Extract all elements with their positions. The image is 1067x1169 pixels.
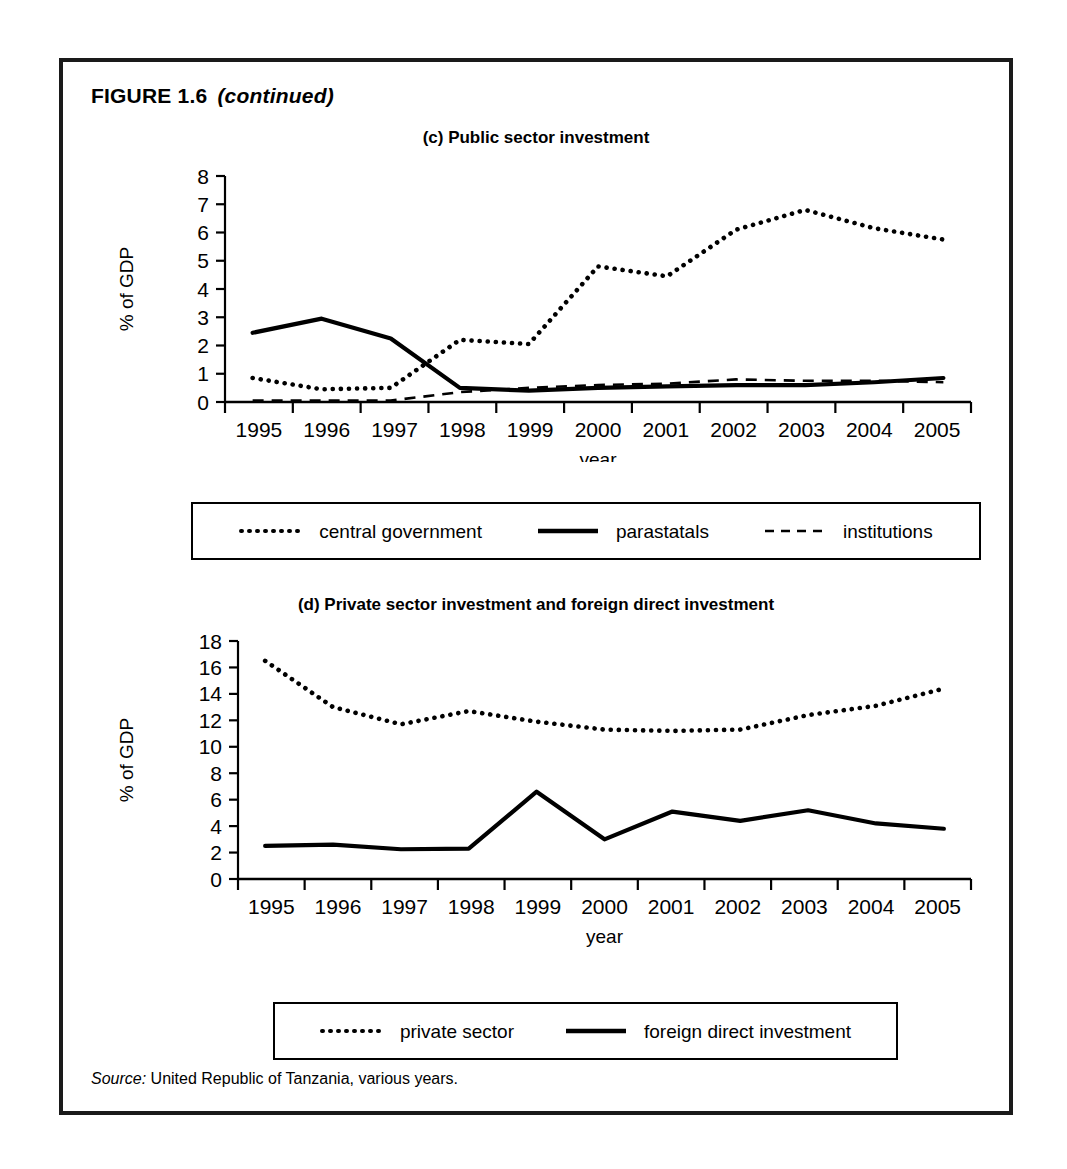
x-tick-label: 2000 — [575, 418, 622, 441]
y-tick-label: 5 — [197, 249, 209, 272]
y-tick-label: 6 — [210, 788, 222, 811]
y-tick-label: 0 — [210, 868, 222, 891]
y-axis-label: % of GDP — [116, 247, 137, 331]
solid-line-icon — [536, 524, 600, 538]
legend-item-institutions[interactable]: institutions — [763, 522, 933, 541]
x-tick-label: 2002 — [710, 418, 757, 441]
legend-item-foreign-direct-investment[interactable]: foreign direct investment — [564, 1022, 851, 1041]
x-tick-label: 1999 — [515, 895, 562, 918]
y-tick-label: 7 — [197, 193, 209, 216]
figure-continued-label: (continued) — [217, 84, 334, 107]
y-tick-label: 2 — [210, 841, 222, 864]
legend-label: central government — [319, 522, 482, 541]
y-tick-label: 4 — [210, 815, 222, 838]
series-line-private-sector — [265, 661, 944, 731]
y-tick-label: 4 — [197, 278, 209, 301]
x-tick-label: 2003 — [778, 418, 825, 441]
dotted-line-icon — [320, 1024, 384, 1038]
x-tick-label: 1998 — [448, 895, 495, 918]
chart-panel-c: 0123456781995199619971998199920002001200… — [103, 162, 993, 462]
y-tick-label: 8 — [197, 165, 209, 188]
figure-frame: FIGURE 1.6(continued) (c) Public sector … — [59, 58, 1013, 1115]
legend-item-parastatals[interactable]: parastatals — [536, 522, 709, 541]
x-tick-label: 2005 — [914, 895, 961, 918]
panel-d-plot: 0246810121416181995199619971998199920002… — [103, 627, 993, 947]
x-tick-label: 2001 — [648, 895, 695, 918]
legend-label: foreign direct investment — [644, 1022, 851, 1041]
series-line-foreign-direct-investment — [265, 792, 944, 850]
x-tick-label: 2004 — [846, 418, 893, 441]
solid-line-icon — [564, 1024, 628, 1038]
y-tick-label: 6 — [197, 221, 209, 244]
legend-label: parastatals — [616, 522, 709, 541]
x-tick-label: 1995 — [248, 895, 295, 918]
legend-label: institutions — [843, 522, 933, 541]
x-tick-label: 2004 — [848, 895, 895, 918]
x-tick-label: 1999 — [507, 418, 554, 441]
y-tick-label: 12 — [199, 709, 222, 732]
y-tick-label: 2 — [197, 334, 209, 357]
y-tick-label: 8 — [210, 762, 222, 785]
y-tick-label: 10 — [199, 735, 222, 758]
y-tick-label: 3 — [197, 306, 209, 329]
source-label: Source: — [91, 1070, 146, 1087]
x-axis-label: year — [580, 449, 618, 462]
y-tick-label: 16 — [199, 656, 222, 679]
source-text: United Republic of Tanzania, various yea… — [146, 1070, 458, 1087]
x-tick-label: 1997 — [371, 418, 418, 441]
y-tick-label: 18 — [199, 630, 222, 653]
chart-panel-d: 0246810121416181995199619971998199920002… — [103, 627, 993, 947]
legend-label: private sector — [400, 1022, 514, 1041]
x-tick-label: 2002 — [714, 895, 761, 918]
source-note: Source: United Republic of Tanzania, var… — [91, 1070, 458, 1088]
panel-c-plot: 0123456781995199619971998199920002001200… — [103, 162, 993, 462]
x-tick-label: 1998 — [439, 418, 486, 441]
x-tick-label: 1996 — [315, 895, 362, 918]
y-tick-label: 14 — [199, 682, 223, 705]
dashed-line-icon — [763, 524, 827, 538]
x-tick-label: 1996 — [303, 418, 350, 441]
y-tick-label: 1 — [197, 362, 209, 385]
panel-c-legend: central government parastatals instituti… — [191, 502, 981, 560]
dotted-line-icon — [239, 524, 303, 538]
x-tick-label: 2003 — [781, 895, 828, 918]
series-line-parastatals — [253, 319, 944, 391]
y-tick-label: 0 — [197, 391, 209, 414]
series-line-central-government — [253, 210, 944, 389]
panel-c-title: (c) Public sector investment — [63, 128, 1009, 148]
legend-item-private-sector[interactable]: private sector — [320, 1022, 514, 1041]
figure-title-text: FIGURE 1.6 — [91, 84, 207, 107]
panel-d-legend: private sector foreign direct investment — [273, 1002, 898, 1060]
x-tick-label: 2001 — [642, 418, 689, 441]
x-tick-label: 1997 — [381, 895, 428, 918]
x-tick-label: 2005 — [914, 418, 961, 441]
x-axis-label: year — [586, 926, 624, 947]
x-tick-label: 1995 — [236, 418, 283, 441]
figure-title: FIGURE 1.6(continued) — [91, 84, 334, 108]
panel-d-title: (d) Private sector investment and foreig… — [63, 595, 1009, 615]
legend-item-central-government[interactable]: central government — [239, 522, 482, 541]
x-tick-label: 2000 — [581, 895, 628, 918]
y-axis-label: % of GDP — [116, 718, 137, 802]
